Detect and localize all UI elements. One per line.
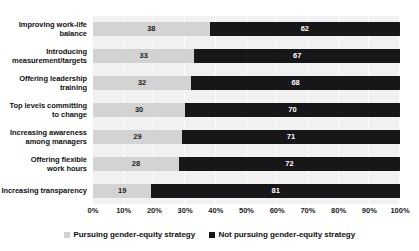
bar-segment-pursuing: 19 — [93, 184, 151, 198]
bar-segment-pursuing: 33 — [93, 49, 194, 63]
bar-value-label: 68 — [191, 79, 400, 87]
category-label: Offering leadershiptraining — [0, 74, 87, 92]
category-label: Offering flexiblework hours — [0, 155, 87, 173]
bar-value-label: 30 — [93, 106, 185, 114]
bar-segment-not-pursuing: 67 — [194, 49, 400, 63]
x-tick-label: 30% — [178, 206, 193, 215]
category-label-line: Improving work-life — [0, 20, 87, 29]
bar-segment-pursuing: 29 — [93, 130, 182, 144]
x-axis-tick-labels: 0%10%20%30%40%50%60%70%80%90%100% — [93, 206, 400, 218]
bar-value-label: 70 — [185, 106, 400, 114]
bar-value-label: 19 — [93, 187, 151, 195]
bar-value-label: 38 — [93, 25, 210, 33]
bar-value-label: 29 — [93, 133, 182, 141]
legend-item: Not pursuing gender-equity strategy — [209, 230, 355, 239]
category-label-line: Offering flexible — [0, 155, 87, 164]
legend-label: Not pursuing gender-equity strategy — [219, 230, 356, 239]
legend-swatch-dark-icon — [209, 232, 215, 238]
bar-segment-pursuing: 28 — [93, 157, 179, 171]
x-tick-label: 20% — [147, 206, 162, 215]
x-tick-label: 90% — [362, 206, 377, 215]
legend-swatch-light-icon — [64, 232, 70, 238]
bar-value-label: 32 — [93, 79, 191, 87]
category-label-line: Increasing transparency — [0, 186, 87, 195]
bar-row: 3268 — [93, 76, 400, 90]
bar-segment-not-pursuing: 81 — [151, 184, 400, 198]
bar-segment-not-pursuing: 70 — [185, 103, 400, 117]
legend-label: Pursuing gender-equity strategy — [73, 230, 195, 239]
x-tick-label: 10% — [116, 206, 131, 215]
x-tick-label: 40% — [208, 206, 223, 215]
bar-segment-not-pursuing: 68 — [191, 76, 400, 90]
bar-value-label: 71 — [182, 133, 400, 141]
chart-legend: Pursuing gender-equity strategyNot pursu… — [0, 230, 419, 239]
legend-item: Pursuing gender-equity strategy — [64, 230, 195, 239]
bar-value-label: 67 — [194, 52, 400, 60]
category-label-line: balance — [0, 29, 87, 38]
bar-segment-not-pursuing: 62 — [210, 22, 400, 36]
bar-row: 3070 — [93, 103, 400, 117]
category-label-line: Offering leadership — [0, 74, 87, 83]
bar-row: 3862 — [93, 22, 400, 36]
category-label: Increasing awarenessamong managers — [0, 128, 87, 146]
bar-value-label: 81 — [151, 187, 400, 195]
bar-value-label: 33 — [93, 52, 194, 60]
category-label-line: Introducing — [0, 47, 87, 56]
category-label-line: to change — [0, 110, 87, 119]
category-label: Top levels committingto change — [0, 101, 87, 119]
bar-segment-pursuing: 38 — [93, 22, 210, 36]
x-tick-label: 60% — [270, 206, 285, 215]
bar-row: 3367 — [93, 49, 400, 63]
bar-row: 2872 — [93, 157, 400, 171]
bar-segment-pursuing: 30 — [93, 103, 185, 117]
chart-title — [0, 0, 419, 2]
category-label: Increasing transparency — [0, 186, 87, 195]
category-label-line: among managers — [0, 137, 87, 146]
bar-segment-not-pursuing: 72 — [179, 157, 400, 171]
category-label: Introducingmeasurement/targets — [0, 47, 87, 65]
x-tick-label: 0% — [88, 206, 99, 215]
category-label: Improving work-lifebalance — [0, 20, 87, 38]
category-label-line: work hours — [0, 164, 87, 173]
bar-row: 2971 — [93, 130, 400, 144]
plot-area: 3862336732683070297128721981 — [93, 16, 400, 204]
x-tick-label: 50% — [239, 206, 254, 215]
x-tick-label: 100% — [390, 206, 409, 215]
stacked-bar-chart: 3862336732683070297128721981 Improving w… — [0, 0, 419, 251]
category-label-line: measurement/targets — [0, 56, 87, 65]
bar-segment-not-pursuing: 71 — [182, 130, 400, 144]
bar-value-label: 28 — [93, 160, 179, 168]
category-label-line: training — [0, 83, 87, 92]
x-tick-label: 70% — [300, 206, 315, 215]
category-label-line: Increasing awareness — [0, 128, 87, 137]
bar-segment-pursuing: 32 — [93, 76, 191, 90]
bar-value-label: 62 — [210, 25, 400, 33]
category-label-line: Top levels committing — [0, 101, 87, 110]
x-tick-label: 80% — [331, 206, 346, 215]
bar-value-label: 72 — [179, 160, 400, 168]
bar-row: 1981 — [93, 184, 400, 198]
